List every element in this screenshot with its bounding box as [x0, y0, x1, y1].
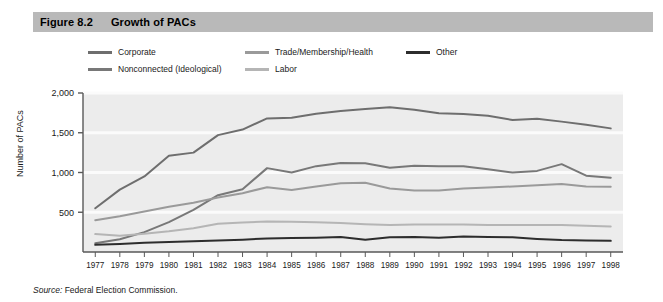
x-tick-label: 1996	[553, 261, 572, 270]
legend-swatch-trade	[245, 51, 269, 54]
x-tick-label: 1983	[233, 261, 252, 270]
figure-header-band: Figure 8.2 Growth of PACs	[33, 12, 653, 32]
x-tick-label: 1986	[307, 261, 326, 270]
x-tick-label: 1980	[160, 261, 179, 270]
x-tick-label: 1977	[86, 261, 105, 270]
x-tick-label: 1982	[209, 261, 228, 270]
legend-label-other: Other	[436, 48, 457, 57]
y-tick-label: 2,000	[51, 88, 74, 98]
x-tick-label: 1991	[430, 261, 449, 270]
source-text: Federal Election Commission.	[65, 285, 178, 295]
chart-plot-area: Number of PACs 5001,0001,5002,0001977197…	[33, 85, 653, 280]
x-tick-label: 1993	[479, 261, 498, 270]
legend-item-corporate: Corporate	[88, 48, 156, 57]
y-axis-title: Number of PACs	[15, 110, 25, 177]
legend-item-other: Other	[406, 48, 457, 57]
legend-label-labor: Labor	[275, 65, 297, 74]
x-tick-label: 1995	[528, 261, 547, 270]
x-tick-label: 1992	[454, 261, 473, 270]
x-tick-label: 1998	[602, 261, 621, 270]
legend-label-nonconnected: Nonconnected (Ideological)	[118, 65, 221, 74]
legend-item-nonconnected: Nonconnected (Ideological)	[88, 65, 221, 74]
legend-label-corporate: Corporate	[118, 48, 156, 57]
y-tick-label: 500	[59, 208, 74, 218]
figure-title: Growth of PACs	[111, 16, 196, 28]
y-tick-label: 1,500	[51, 128, 74, 138]
x-tick-label: 1979	[135, 261, 154, 270]
legend-item-trade: Trade/Membership/Health	[245, 48, 373, 57]
figure-number: Figure 8.2	[40, 16, 93, 28]
source-note: Source: Federal Election Commission.	[33, 285, 178, 295]
x-tick-label: 1987	[332, 261, 351, 270]
x-tick-label: 1994	[503, 261, 522, 270]
x-tick-label: 1997	[577, 261, 596, 270]
x-tick-label: 1981	[184, 261, 203, 270]
x-tick-label: 1990	[405, 261, 424, 270]
legend-swatch-nonconnected	[88, 68, 112, 71]
source-label: Source:	[33, 285, 62, 295]
legend-label-trade: Trade/Membership/Health	[275, 48, 373, 57]
x-tick-label: 1984	[258, 261, 277, 270]
x-tick-label: 1988	[356, 261, 375, 270]
line-chart: 5001,0001,5002,0001977197819791980198119…	[33, 85, 653, 280]
y-tick-label: 1,000	[51, 168, 74, 178]
chart-legend: Corporate Nonconnected (Ideological) Tra…	[88, 48, 558, 80]
legend-swatch-labor	[245, 68, 269, 71]
x-tick-label: 1989	[381, 261, 400, 270]
x-tick-label: 1978	[111, 261, 130, 270]
x-tick-label: 1985	[283, 261, 302, 270]
legend-item-labor: Labor	[245, 65, 297, 74]
legend-swatch-other	[406, 51, 430, 54]
legend-swatch-corporate	[88, 51, 112, 54]
